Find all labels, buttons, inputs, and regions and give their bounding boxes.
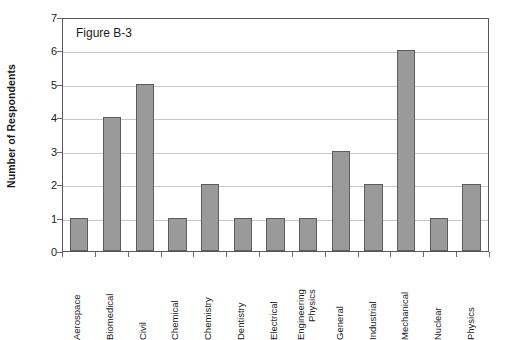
x-axis-tick-label-line: Engineering — [295, 289, 306, 340]
x-axis-tick-label: Mechanical — [399, 292, 410, 340]
bar-slot — [423, 19, 456, 251]
bar[interactable] — [234, 218, 252, 251]
x-axis-tick-labels: AerospaceBiomedicalCivilChemicalChemistr… — [62, 258, 489, 336]
bar[interactable] — [136, 84, 154, 251]
bar-slot — [357, 19, 390, 251]
x-axis-tick-mark — [358, 252, 359, 257]
bar-slot — [292, 19, 325, 251]
bar-series — [63, 19, 488, 251]
x-axis-tick-mark — [226, 252, 227, 257]
x-axis-label-slot: Chemistry — [193, 258, 226, 336]
x-axis-label-slot: Electrical — [259, 258, 292, 336]
bar[interactable] — [103, 117, 121, 251]
x-axis-tick-label: Chemistry — [202, 297, 213, 340]
x-axis-tick-mark — [128, 252, 129, 257]
bar-slot — [194, 19, 227, 251]
bar[interactable] — [462, 184, 480, 251]
x-axis-tick-label-line: Civil — [137, 322, 148, 340]
x-axis-tick-mark — [292, 252, 293, 257]
x-axis-tick-label-line: Chemical — [169, 300, 180, 340]
bar-slot — [128, 19, 161, 251]
bar[interactable] — [201, 184, 219, 251]
x-axis-label-slot: Chemical — [161, 258, 194, 336]
x-axis-tick-mark — [423, 252, 424, 257]
x-axis-tick-label-line: Nuclear — [432, 307, 443, 340]
x-axis-tick-label-line: Physics — [465, 307, 476, 340]
x-axis-label-slot: Civil — [128, 258, 161, 336]
bar-slot — [455, 19, 488, 251]
bar[interactable] — [332, 151, 350, 251]
x-axis-tick-label-line: Industrial — [367, 301, 378, 340]
figure-label: Figure B-3 — [76, 26, 132, 40]
x-axis-tick-mark — [489, 252, 490, 257]
x-axis-tick-mark — [161, 252, 162, 257]
x-axis-label-slot: Nuclear — [423, 258, 456, 336]
x-axis-tick-label-line: Aerospace — [71, 295, 82, 340]
bar-slot — [325, 19, 358, 251]
bar[interactable] — [430, 218, 448, 251]
bar-slot — [226, 19, 259, 251]
x-axis-tick-label: Chemical — [169, 300, 180, 340]
x-axis-tick-mark — [193, 252, 194, 257]
x-axis-tick-label-line: Mechanical — [399, 292, 410, 340]
plot-area — [62, 18, 489, 252]
x-axis-label-slot: Aerospace — [62, 258, 95, 336]
bar[interactable] — [299, 218, 317, 251]
x-axis-label-slot: Physics — [456, 258, 489, 336]
y-axis-tick-labels: 01234567 — [40, 18, 57, 252]
bar[interactable] — [397, 50, 415, 251]
bar[interactable] — [70, 218, 88, 251]
x-axis-tick-label: Nuclear — [432, 307, 443, 340]
bar-slot — [96, 19, 129, 251]
x-axis-tick-label: Industrial — [367, 301, 378, 340]
x-axis-label-slot: General — [325, 258, 358, 336]
x-axis-label-slot: Biomedical — [95, 258, 128, 336]
x-axis-tick-label: Electrical — [268, 301, 279, 340]
x-axis-tick-mark — [325, 252, 326, 257]
x-axis-tick-mark — [62, 252, 63, 257]
bar[interactable] — [168, 218, 186, 251]
bar[interactable] — [364, 184, 382, 251]
x-axis-tick-label-line: Physics — [306, 289, 317, 340]
x-axis-tick-label: Biomedical — [104, 294, 115, 340]
x-axis-label-slot: EngineeringPhysics — [292, 258, 325, 336]
x-axis-tick-label: EngineeringPhysics — [295, 289, 317, 340]
x-axis-tick-label: Physics — [465, 307, 476, 340]
x-axis-tick-label: Civil — [137, 322, 148, 340]
x-axis-label-slot: Dentistry — [226, 258, 259, 336]
x-axis-tick-label-line: Electrical — [268, 301, 279, 340]
x-axis-tick-label-line: Biomedical — [104, 294, 115, 340]
y-axis-title: Number of Respondents — [0, 0, 22, 252]
bar-slot — [63, 19, 96, 251]
x-axis-label-slot: Industrial — [358, 258, 391, 336]
x-axis-label-slot: Mechanical — [390, 258, 423, 336]
bar-slot — [390, 19, 423, 251]
x-axis-tick-label-line: Dentistry — [235, 303, 246, 340]
bar-slot — [259, 19, 292, 251]
x-axis-tick-label: Dentistry — [235, 303, 246, 340]
x-axis-tick-label: Aerospace — [71, 295, 82, 340]
bar-slot — [161, 19, 194, 251]
x-axis-tick-label-line: Chemistry — [202, 297, 213, 340]
x-axis-tick-mark — [456, 252, 457, 257]
x-axis-tick-label-line: General — [334, 306, 345, 340]
x-axis-tick-mark — [390, 252, 391, 257]
x-axis-tick-mark — [259, 252, 260, 257]
bar[interactable] — [266, 218, 284, 251]
x-axis-tick-mark — [95, 252, 96, 257]
x-axis-tick-label: General — [334, 306, 345, 340]
